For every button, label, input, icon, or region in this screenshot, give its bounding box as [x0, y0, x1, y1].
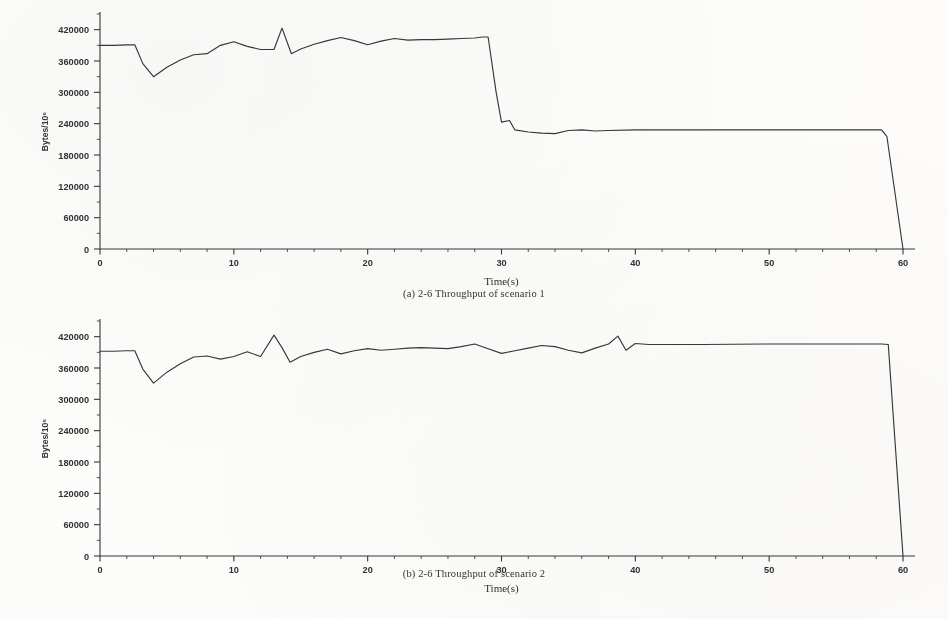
x-axis-tick-label: 0: [97, 258, 102, 268]
y-axis-tick-label: 360000: [58, 57, 89, 67]
figure-caption-a: (a) 2-6 Throughput of scenario 1: [0, 288, 948, 299]
y-axis-tick-label: 60000: [63, 213, 89, 223]
x-axis-tick-label: 20: [363, 258, 373, 268]
x-axis-title: Time(s): [484, 582, 519, 595]
figure-caption-b: (b) 2-6 Throughput of scenario 2: [0, 568, 948, 579]
y-axis-tick-label: 300000: [58, 395, 89, 405]
y-axis-tick-label: 300000: [58, 88, 89, 98]
y-axis-tick-label: 0: [84, 552, 89, 562]
figure-scenario-1: 0600001200001800002400003000003600004200…: [0, 0, 948, 312]
y-axis-tick-label: 180000: [58, 151, 89, 161]
y-axis-tick-label: 360000: [58, 364, 89, 374]
y-axis-tick-label: 420000: [58, 25, 89, 35]
throughput-chart-scenario-2: 0600001200001800002400003000003600004200…: [0, 307, 948, 597]
throughput-chart-scenario-1: 0600001200001800002400003000003600004200…: [0, 0, 948, 290]
data-line-scenario-1: [100, 28, 903, 249]
y-axis-title: Bytes/10⁶: [40, 419, 50, 458]
y-axis-tick-label: 0: [84, 245, 89, 255]
data-line-scenario-2: [100, 335, 903, 556]
y-axis-tick-label: 60000: [63, 520, 89, 530]
y-axis-tick-label: 420000: [58, 332, 89, 342]
x-axis-tick-label: 60: [898, 258, 908, 268]
x-axis-tick-label: 50: [764, 258, 774, 268]
x-axis-tick-label: 30: [496, 258, 506, 268]
y-axis-tick-label: 180000: [58, 458, 89, 468]
y-axis-title: Bytes/10⁶: [40, 112, 50, 151]
x-axis-title: Time(s): [484, 275, 519, 288]
y-axis-tick-label: 240000: [58, 119, 89, 129]
x-axis-tick-label: 40: [630, 258, 640, 268]
y-axis-tick-label: 120000: [58, 489, 89, 499]
x-axis-tick-label: 10: [229, 258, 239, 268]
y-axis-tick-label: 120000: [58, 182, 89, 192]
y-axis-tick-label: 240000: [58, 426, 89, 436]
